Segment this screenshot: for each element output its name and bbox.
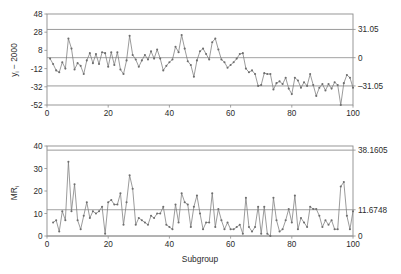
data-point-marker [95, 53, 97, 55]
data-point-marker [288, 208, 290, 210]
data-point-marker [187, 60, 189, 62]
data-point-marker [217, 208, 219, 210]
data-point-marker [135, 224, 137, 226]
data-point-marker [251, 230, 253, 232]
data-point-marker [205, 221, 207, 223]
data-point-marker [132, 54, 134, 56]
y-tick-label: 0 [38, 232, 43, 241]
x-tick-label: 0 [45, 240, 50, 249]
data-point-marker [98, 210, 100, 212]
data-point-marker [266, 73, 268, 75]
data-point-marker [233, 61, 235, 63]
y-tick-label: 40 [33, 142, 43, 151]
data-point-marker [138, 217, 140, 219]
data-point-marker [315, 208, 317, 210]
data-point-marker [55, 69, 57, 71]
data-point-marker [334, 228, 336, 230]
data-point-marker [110, 51, 112, 53]
data-point-marker [349, 228, 351, 230]
data-point-marker [205, 53, 207, 55]
data-point-marker [242, 233, 244, 235]
data-point-marker [315, 95, 317, 97]
data-point-marker [208, 221, 210, 223]
data-point-marker [223, 228, 225, 230]
data-point-marker [202, 228, 204, 230]
data-point-marker [95, 212, 97, 214]
right-limit-label-cl: 0 [358, 54, 363, 63]
data-point-marker [236, 226, 238, 228]
data-point-marker [83, 215, 85, 217]
y-axis-title-text: MRi [9, 186, 20, 200]
data-point-marker [52, 221, 54, 223]
data-point-marker [159, 58, 161, 60]
data-point-marker [129, 35, 131, 37]
data-point-marker [318, 87, 320, 89]
y-tick-label: -32 [31, 83, 43, 92]
x-tick-label: 60 [226, 109, 236, 118]
moving-range-axes [44, 146, 353, 239]
data-point-marker [245, 197, 247, 199]
data-point-marker [303, 221, 305, 223]
data-point-marker [220, 58, 222, 60]
data-point-marker [279, 230, 281, 232]
data-point-marker [52, 63, 54, 65]
data-point-marker [285, 219, 287, 221]
y-tick-label: 20 [33, 187, 43, 196]
right-limit-label-lcl: 0 [358, 232, 363, 241]
data-point-marker [153, 58, 155, 60]
data-point-marker [257, 85, 259, 87]
data-point-marker [67, 38, 69, 40]
data-point-marker [116, 51, 118, 53]
data-point-marker [211, 41, 213, 43]
data-point-marker [153, 217, 155, 219]
data-point-marker [340, 104, 342, 106]
data-point-marker [171, 58, 173, 60]
data-point-marker [306, 226, 308, 228]
data-point-marker [77, 219, 79, 221]
data-point-marker [61, 61, 63, 63]
data-point-marker [214, 38, 216, 40]
data-point-marker [230, 228, 232, 230]
data-point-marker [70, 48, 72, 50]
data-point-marker [147, 224, 149, 226]
data-point-marker [233, 228, 235, 230]
data-point-marker [306, 85, 308, 87]
data-point-marker [346, 74, 348, 76]
data-point-marker [101, 51, 103, 53]
data-point-marker [122, 73, 124, 75]
series-polyline [53, 162, 353, 236]
data-point-marker [122, 224, 124, 226]
data-point-marker [346, 215, 348, 217]
control-chart-figure: 020406080100-52-32-128284831.050–31.05yi… [0, 0, 401, 274]
data-point-marker [288, 88, 290, 90]
data-point-marker [318, 215, 320, 217]
data-point-marker [272, 88, 274, 90]
data-point-marker [312, 208, 314, 210]
moving-range-data-series [52, 161, 354, 237]
data-point-marker [86, 201, 88, 203]
data-point-marker [92, 210, 94, 212]
data-point-marker [266, 233, 268, 235]
data-point-marker [196, 59, 198, 61]
data-point-marker [327, 224, 329, 226]
data-point-marker [150, 50, 152, 52]
data-point-marker [226, 221, 228, 223]
data-point-marker [337, 84, 339, 86]
y-tick-label: 28 [33, 28, 43, 37]
individuals-axes [44, 14, 353, 108]
data-point-marker [110, 199, 112, 201]
individuals-control-chart: 020406080100-52-32-128284831.050–31.05yi… [0, 0, 401, 136]
data-point-marker [116, 203, 118, 205]
data-point-marker [80, 228, 82, 230]
data-point-marker [230, 64, 232, 66]
data-point-marker [321, 83, 323, 85]
data-point-marker [272, 197, 274, 199]
y-tick-label: 48 [33, 10, 43, 19]
right-limit-label-cl: 11.6748 [358, 206, 387, 215]
data-point-marker [77, 62, 79, 64]
data-point-marker [162, 206, 164, 208]
data-point-marker [104, 52, 106, 54]
data-point-marker [126, 59, 128, 61]
data-point-marker [334, 81, 336, 83]
right-limit-label-ucl: 38.1605 [358, 146, 388, 155]
